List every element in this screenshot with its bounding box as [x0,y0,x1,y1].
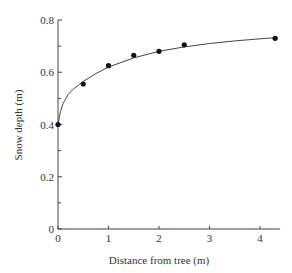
data-point [55,122,60,127]
data-point [182,42,187,47]
x-tick-label: 4 [257,232,263,244]
y-tick-label: 0.4 [40,119,54,131]
x-tick-label: 2 [156,232,162,244]
data-point [106,63,111,68]
data-point [156,49,161,54]
data-point [273,36,278,41]
x-axis-label: Distance from tree (m) [109,254,210,267]
snow-depth-chart: 00.20.40.60.801234 Distance from tree (m… [0,0,292,273]
y-tick-label: 0 [49,223,55,235]
y-tick-label: 0.2 [40,171,54,183]
fit-curve [58,38,278,125]
x-tick-label: 3 [207,232,213,244]
axes: 00.20.40.60.801234 [40,14,280,244]
x-tick-label: 1 [106,232,112,244]
data-points [55,36,277,127]
data-point [131,53,136,58]
y-axis-label: Snow depth (m) [12,89,25,160]
y-tick-label: 0.6 [40,66,54,78]
y-tick-label: 0.8 [40,14,54,26]
data-point [81,81,86,86]
x-tick-label: 0 [55,232,61,244]
